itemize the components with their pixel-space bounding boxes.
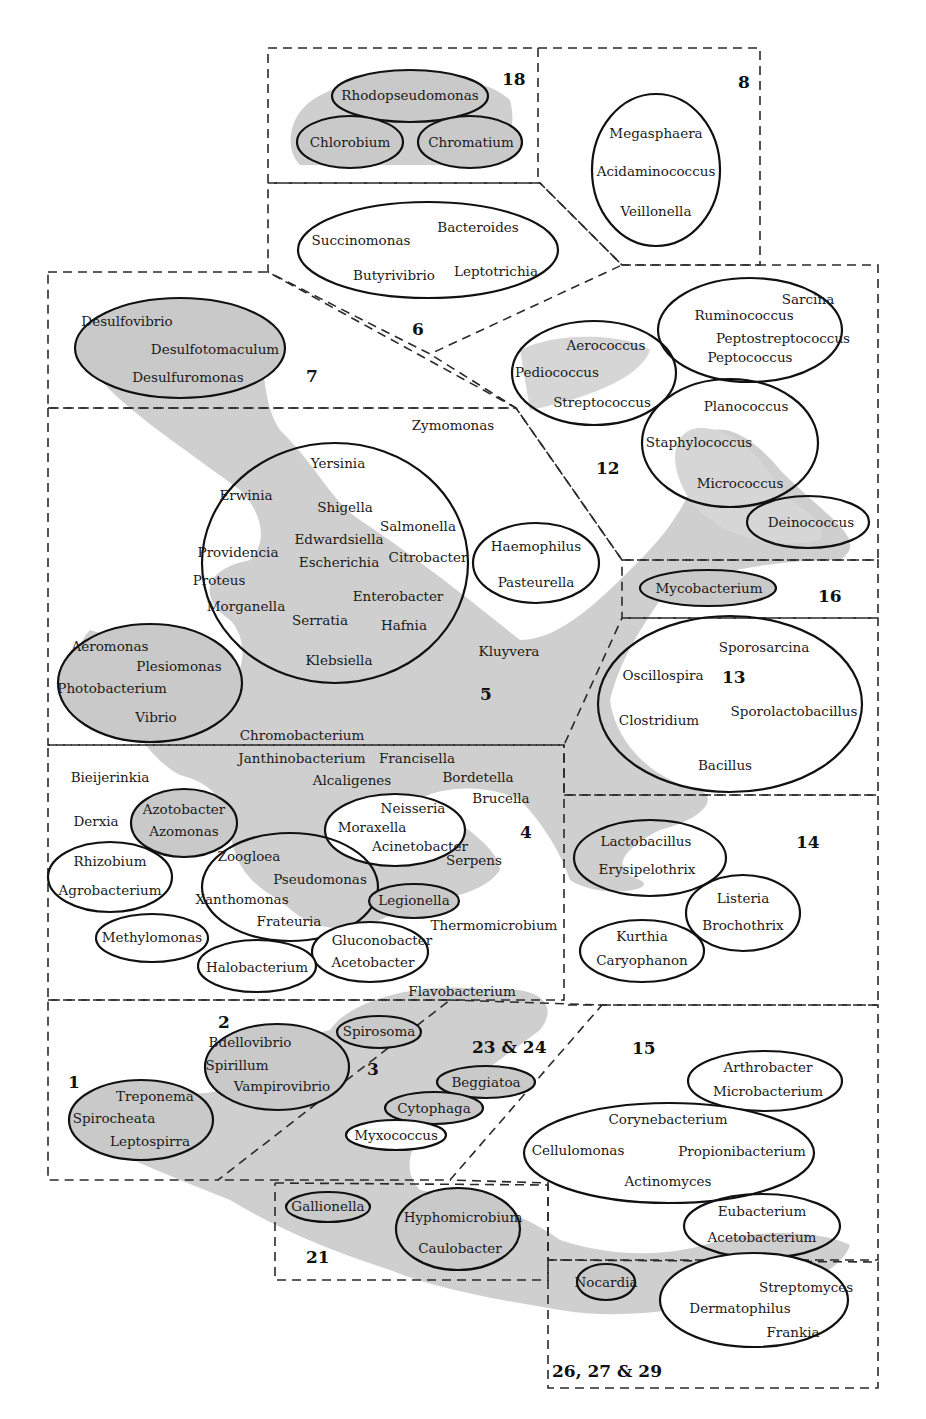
genus-label: Succinomonas [312, 232, 411, 248]
bacterial-grouping-diagram: RhodopseudomonasChlorobiumChromatiumMega… [0, 0, 926, 1419]
genus-label: Chromatium [428, 134, 514, 150]
hyphomicrobium-group-ellipse [396, 1188, 520, 1270]
genus-label: Desulfotomaculum [151, 341, 280, 357]
genus-label: Clostridium [619, 712, 700, 728]
genus-label: Sporolactobacillus [731, 703, 858, 719]
group-bacteroides-group: SuccinomonasBacteroidesButyrivibrioLepto… [298, 202, 558, 298]
section-number-23-24: 23 & 24 [472, 1037, 547, 1057]
section-number-14: 14 [796, 832, 820, 852]
genus-label: Arthrobacter [722, 1059, 813, 1075]
genus-label: Vampirovibrio [233, 1078, 330, 1094]
group-gallionella: Gallionella [286, 1192, 370, 1222]
group-legionella: Legionella [369, 884, 459, 918]
genus-label: Cellulomonas [532, 1142, 625, 1158]
group-gluconobacter-group: GluconobacterAcetobacter [312, 922, 433, 982]
genus-label: Treponema [116, 1088, 194, 1104]
genus-label: Hyphomicrobium [404, 1209, 523, 1225]
genus-label: Kurthia [616, 928, 667, 944]
genus-label: Zymomonas [412, 417, 495, 433]
genus-label: Janthinobacterium [236, 750, 366, 766]
section-number-18: 18 [502, 69, 526, 89]
haemophilus-group-ellipse [473, 523, 599, 603]
genus-label: Listeria [717, 890, 769, 906]
genus-label: Lactobacillus [601, 833, 692, 849]
genus-label: Cytophaga [397, 1100, 471, 1116]
genus-label: Oscillospira [622, 667, 703, 683]
genus-label: Providencia [198, 544, 279, 560]
group-rhizobium-group: RhizobiumAgrobacterium [48, 842, 172, 912]
section-number-12: 12 [596, 458, 620, 478]
section-number-2: 2 [218, 1012, 230, 1032]
group-halobacterium: Halobacterium [198, 940, 316, 992]
group-vibrio-group: AeromonasPlesiomonasPhotobacteriumVibrio [57, 624, 242, 742]
genus-label: Escherichia [299, 554, 379, 570]
genus-label: Actinomyces [624, 1173, 712, 1189]
genus-label: Leptospirra [110, 1133, 190, 1149]
genus-label: Bacteroides [437, 219, 518, 235]
genus-label: Gallionella [291, 1198, 364, 1214]
genus-label: Micrococcus [697, 475, 784, 491]
genus-label: Peptococcus [707, 349, 792, 365]
group-spirochete-group: TreponemaSpirocheataLeptospirra [69, 1080, 213, 1160]
genus-label: Pasteurella [498, 574, 575, 590]
bacteroides-group-ellipse [298, 202, 558, 298]
genus-label: Planococcus [704, 398, 789, 414]
genus-label: Xanthomonas [195, 891, 288, 907]
genus-label: Frankia [766, 1324, 819, 1340]
group-mycobacterium: Mycobacterium [640, 570, 776, 606]
genus-label: Corynebacterium [608, 1111, 727, 1127]
genus-label: Beggiatoa [451, 1074, 520, 1090]
section-number-13: 13 [722, 667, 746, 687]
group-myxococcus: Myxococcus [346, 1120, 446, 1150]
genus-label: Salmonella [380, 518, 456, 534]
genus-label: Morganella [207, 598, 285, 614]
genus-label: Gluconobacter [332, 932, 433, 948]
group-ruminococcus-group: SarcinaRuminococcusPeptostreptococcusPep… [658, 278, 850, 382]
genus-label: Veillonella [620, 203, 692, 219]
group-listeria-group: ListeriaBrochothrix [686, 875, 800, 951]
genus-label: Plesiomonas [136, 658, 221, 674]
group-nocardia: Nocardia [574, 1264, 637, 1300]
genus-label: Azomonas [148, 823, 219, 839]
genus-label: Streptomyces [759, 1279, 853, 1295]
genus-label: Francisella [379, 750, 455, 766]
genus-label: Shigella [317, 499, 373, 515]
genus-label: Serpens [446, 852, 502, 868]
genus-label: Mycobacterium [655, 580, 762, 596]
genus-label: Flavobacterium [408, 983, 516, 999]
group-chromatium: Chromatium [418, 116, 522, 168]
section-number-6: 6 [412, 319, 424, 339]
genus-label: Spirosoma [343, 1023, 416, 1039]
genus-label: Serratia [292, 612, 348, 628]
genus-label: Leptotrichia [454, 263, 538, 279]
section-number-3: 3 [367, 1059, 379, 1079]
gluconobacter-group-ellipse [312, 922, 428, 982]
genus-label: Megasphaera [609, 125, 702, 141]
genus-label: Chlorobium [310, 134, 391, 150]
genus-label: Klebsiella [306, 652, 373, 668]
section-number-26-27-29: 26, 27 & 29 [552, 1361, 662, 1381]
genus-label: Brochothrix [702, 917, 784, 933]
group-hyphomicrobium-group: HyphomicrobiumCaulobacter [396, 1188, 522, 1270]
genus-label: Sarcina [782, 291, 834, 307]
genus-label: Yersinia [310, 455, 366, 471]
genus-label: Spirocheata [73, 1110, 156, 1126]
genus-label: Azotobacter [142, 801, 226, 817]
section-number-7: 7 [306, 366, 318, 386]
genus-label: Haemophilus [491, 538, 581, 554]
group-methylomonas: Methylomonas [96, 914, 208, 962]
genus-label: Staphylococcus [646, 434, 753, 450]
group-rhodopseudomonas: Rhodopseudomonas [332, 70, 488, 122]
genus-label: Bieijerinkia [71, 769, 150, 785]
group-chlorobium: Chlorobium [297, 116, 403, 168]
genus-label: Zoogloea [218, 848, 281, 864]
genus-label: Caryophanon [596, 952, 688, 968]
section-number-8: 8 [738, 72, 750, 92]
group-bacillus-group: SporosarcinaOscillospiraSporolactobacill… [598, 616, 862, 792]
genus-label: Hafnia [381, 617, 427, 633]
genus-label: Aeromonas [71, 638, 149, 654]
genus-label: Kluyvera [479, 643, 540, 659]
section-number-5: 5 [480, 684, 492, 704]
genus-label: Aerococcus [566, 337, 646, 353]
group-azotobacter-group: AzotobacterAzomonas [131, 789, 237, 857]
